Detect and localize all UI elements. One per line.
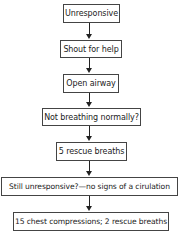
node-shout-for-help: Shout for help xyxy=(60,40,122,58)
arrow-head-icon xyxy=(86,171,92,176)
arrow-head-icon xyxy=(86,68,92,73)
arrow-head-icon xyxy=(86,136,92,141)
node-unresponsive: Unresponsive xyxy=(63,4,120,23)
arrow-head-icon xyxy=(86,102,92,107)
arrow-head-icon xyxy=(86,206,92,211)
node-5-rescue-breaths: 5 rescue breaths xyxy=(56,142,127,161)
node-still-unresponsive: Still unresponsive?—no signs of a cirula… xyxy=(1,177,178,196)
node-chest-compressions: 15 chest compressions; 2 rescue breaths xyxy=(13,212,169,231)
arrow-head-icon xyxy=(86,34,92,39)
node-open-airway: Open airway xyxy=(63,74,119,93)
node-not-breathing-normally: Not breathing normally? xyxy=(42,108,141,126)
